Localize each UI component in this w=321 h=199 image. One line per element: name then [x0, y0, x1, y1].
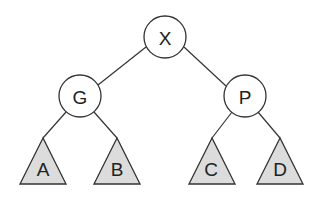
tree-diagram: X G P A B C D: [0, 0, 321, 199]
edge-p-c: [212, 112, 232, 138]
edge-p-d: [258, 112, 280, 138]
subtree-c: C: [189, 138, 235, 184]
subtree-d: D: [257, 138, 303, 184]
subtree-a: A: [20, 138, 66, 184]
subtree-d-label: D: [273, 159, 287, 180]
edge-g-b: [94, 112, 117, 138]
node-g: G: [59, 75, 101, 117]
node-p-label: P: [239, 87, 252, 108]
node-p: P: [224, 75, 266, 117]
node-x-label: X: [159, 28, 172, 49]
edge-x-p: [184, 47, 226, 86]
edge-x-g: [98, 47, 146, 85]
edge-g-a: [43, 112, 66, 138]
node-g-label: G: [73, 87, 88, 108]
subtree-b-label: B: [111, 159, 124, 180]
subtree-b: B: [94, 138, 140, 184]
subtree-a-label: A: [37, 159, 50, 180]
node-x: X: [144, 16, 186, 58]
subtree-c-label: C: [204, 159, 218, 180]
